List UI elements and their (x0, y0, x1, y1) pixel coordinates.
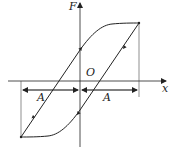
point-max (138, 22, 140, 24)
diagram-canvas: F x O A A (0, 0, 173, 154)
dimension-left-label: A (36, 91, 45, 104)
origin-label: O (86, 66, 95, 79)
dimension-right-label: A (102, 91, 111, 104)
point-min (20, 136, 22, 138)
direction-arrow-down-right (123, 45, 127, 49)
x-axis-label: x (162, 82, 169, 95)
hysteresis-diagram: F x O A A (0, 0, 173, 154)
f-axis-label: F (68, 0, 77, 13)
